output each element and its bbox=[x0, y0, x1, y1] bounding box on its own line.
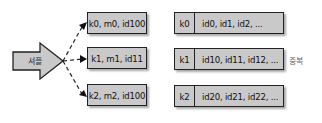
duplicate-annotation: 중복 bbox=[289, 55, 303, 66]
record-box: k2, m2, id100 bbox=[87, 84, 147, 106]
group-box: k1 id10, id11, id12, ... bbox=[174, 48, 284, 70]
group-key: k1 bbox=[175, 49, 195, 69]
group-box: k0 id0, id1, id2, ... bbox=[174, 12, 284, 34]
group-box: k2 id20, id21, id22, ... bbox=[174, 85, 284, 107]
record-box: k1, m1, id11 bbox=[87, 47, 147, 69]
group-values: id0, id1, id2, ... bbox=[195, 13, 283, 33]
arrowhead-icon bbox=[79, 22, 87, 30]
group-values: id20, id21, id22, ... bbox=[195, 86, 283, 106]
shuffle-label: 셔플 bbox=[20, 55, 50, 66]
arrowheads bbox=[79, 22, 87, 97]
arrowhead-icon bbox=[80, 55, 87, 63]
group-values: id10, id11, id12, ... bbox=[195, 49, 283, 69]
group-key: k0 bbox=[175, 13, 195, 33]
group-key: k2 bbox=[175, 86, 195, 106]
arrowhead-icon bbox=[79, 90, 87, 97]
dashed-connectors bbox=[63, 27, 82, 94]
record-box: k0, m0, id100 bbox=[87, 12, 147, 34]
